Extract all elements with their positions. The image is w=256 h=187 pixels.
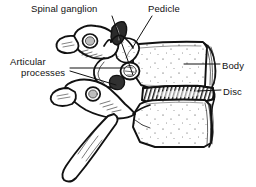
- inferior-articular-process: [109, 75, 124, 89]
- label-body: Body: [222, 60, 244, 71]
- spinous-process-upper: [56, 36, 78, 53]
- label-disc: Disc: [223, 86, 242, 97]
- anatomy-figure: Spinal ganglion Pedicle Articularprocess…: [0, 0, 256, 187]
- transverse-foramen-upper: [83, 34, 98, 48]
- transverse-foramen-lower: [86, 87, 100, 101]
- label-pedicle: Pedicle: [148, 3, 180, 14]
- transverse-process-lower: [51, 88, 76, 106]
- label-articular-processes: Articularprocesses: [10, 56, 65, 78]
- spinal-ganglion: [121, 63, 140, 80]
- vertebra-illustration: [0, 0, 256, 187]
- label-spinal-ganglion: Spinal ganglion: [31, 3, 97, 14]
- label-articular-line1: Articular: [10, 56, 46, 67]
- label-articular-line2: processes: [10, 67, 65, 78]
- vertebral-body-upper: [133, 42, 207, 89]
- spinous-process-lower: [62, 114, 117, 182]
